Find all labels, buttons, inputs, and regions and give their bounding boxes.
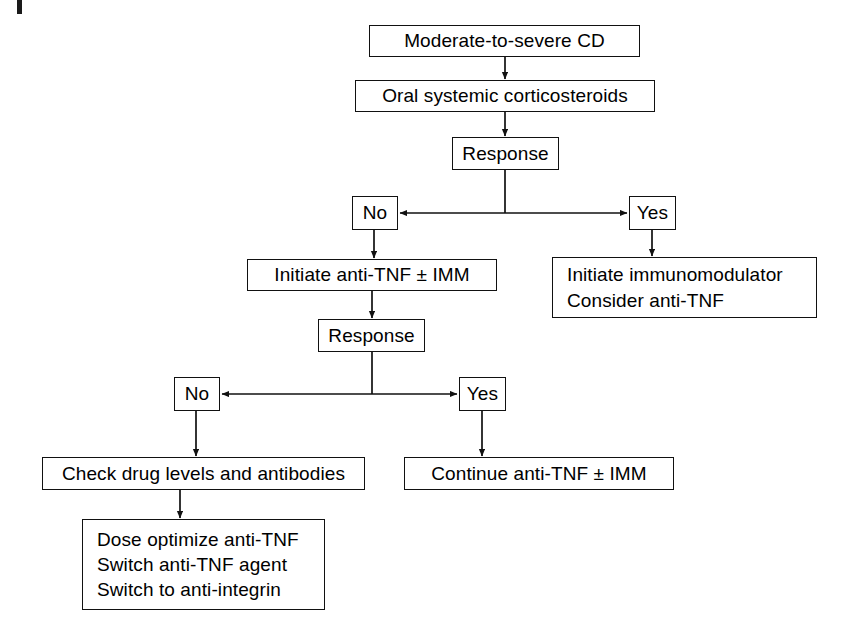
node-response-2-label: Response <box>328 323 414 348</box>
node-continue-anti-tnf[interactable]: Continue anti-TNF ± IMM <box>404 457 674 490</box>
flowchart-canvas: Moderate-to-severe CD Oral systemic cort… <box>0 0 843 638</box>
node-yes-1-label: Yes <box>637 200 668 225</box>
node-initiate-immunomodulator[interactable]: Initiate immunomodulator Consider anti-T… <box>552 257 817 318</box>
scan-artifact <box>17 0 22 14</box>
node-oral-corticosteroids-label: Oral systemic corticosteroids <box>382 83 628 108</box>
node-initiate-immunomodulator-line-2: Consider anti-TNF <box>567 288 724 313</box>
node-check-drug-levels[interactable]: Check drug levels and antibodies <box>42 457 365 490</box>
node-check-drug-levels-label: Check drug levels and antibodies <box>62 461 345 486</box>
node-yes-1[interactable]: Yes <box>629 196 676 230</box>
node-response-2[interactable]: Response <box>318 319 425 352</box>
node-start[interactable]: Moderate-to-severe CD <box>369 25 640 57</box>
node-no-2[interactable]: No <box>174 377 220 411</box>
node-initiate-immunomodulator-line-1: Initiate immunomodulator <box>567 262 783 287</box>
node-no-1[interactable]: No <box>352 196 398 230</box>
node-start-label: Moderate-to-severe CD <box>404 28 605 53</box>
node-treatment-options-line-3: Switch to anti-integrin <box>97 577 281 602</box>
node-treatment-options-line-1: Dose optimize anti-TNF <box>97 527 299 552</box>
node-yes-2-label: Yes <box>467 381 498 406</box>
node-response-1[interactable]: Response <box>452 137 559 170</box>
node-no-1-label: No <box>363 200 388 225</box>
node-initiate-anti-tnf[interactable]: Initiate anti-TNF ± IMM <box>247 259 497 291</box>
node-continue-anti-tnf-label: Continue anti-TNF ± IMM <box>431 461 646 486</box>
node-treatment-options-line-2: Switch anti-TNF agent <box>97 552 287 577</box>
node-initiate-anti-tnf-label: Initiate anti-TNF ± IMM <box>274 262 469 287</box>
node-treatment-options[interactable]: Dose optimize anti-TNF Switch anti-TNF a… <box>82 519 325 610</box>
node-no-2-label: No <box>185 381 210 406</box>
node-yes-2[interactable]: Yes <box>459 377 506 411</box>
node-response-1-label: Response <box>462 141 548 166</box>
node-oral-corticosteroids[interactable]: Oral systemic corticosteroids <box>355 80 655 112</box>
